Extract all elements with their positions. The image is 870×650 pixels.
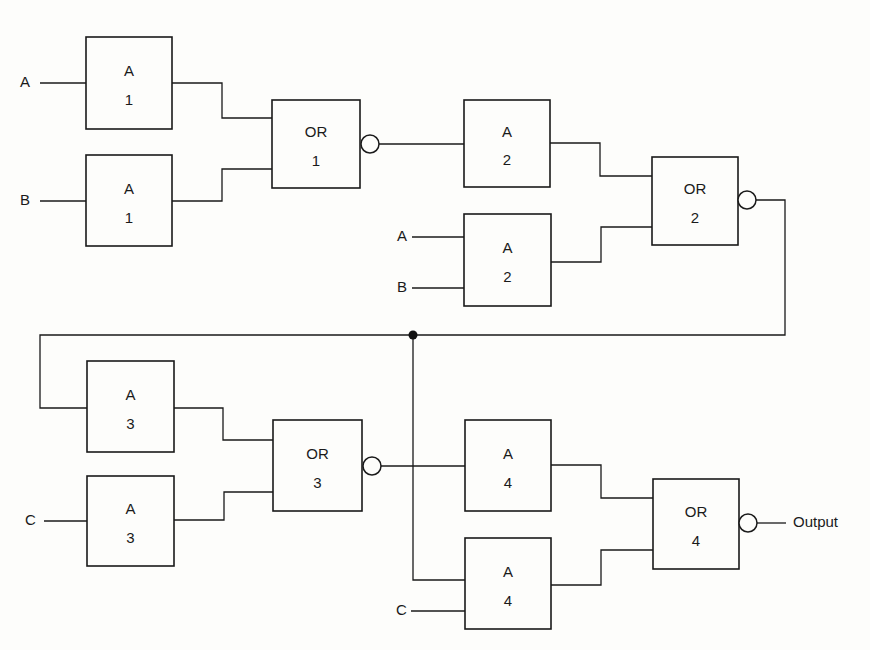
input-c-2-label: C [396,601,407,618]
gate-type-label: A [125,500,135,517]
inverter-bubble-icon [361,135,379,153]
wire [172,169,272,201]
gate-number-label: 4 [692,532,700,549]
gate-type-label: A [502,239,512,256]
gate-type-label: A [124,180,134,197]
input-b-1-label: B [20,191,30,208]
gate-and-3a: A3 [87,361,174,452]
input-a-2-label: A [397,227,407,244]
gate-or-2: OR2 [652,157,738,245]
gate-or-4: OR4 [653,479,739,569]
gate-type-label: A [124,62,134,79]
gate-number-label: 1 [125,209,133,226]
gate-type-label: A [503,563,513,580]
junction-dot-icon [409,331,418,340]
gate-and-4a: A4 [465,420,551,511]
gate-or-3: OR3 [273,420,362,511]
gate-and-3b: A3 [87,476,174,566]
gate-type-label: OR [306,445,329,462]
wire [172,83,272,118]
gate-type-label: OR [684,180,707,197]
logic-circuit-diagram: A1A1OR1A2A2OR2A3A3OR3A4A4OR4 ABABCCOutpu… [0,0,870,650]
gate-number-label: 3 [313,474,321,491]
wires [40,83,786,611]
gate-number-label: 3 [126,415,134,432]
gate-number-label: 3 [126,529,134,546]
gate-body [464,214,551,306]
input-a-1-label: A [20,73,30,90]
gate-number-label: 4 [504,592,512,609]
inverter-bubble-icon [363,457,381,475]
wire [413,335,465,580]
gate-number-label: 2 [503,151,511,168]
input-c-1-label: C [25,511,36,528]
gate-and-1b: A1 [86,155,172,246]
gate-and-2b: A2 [464,214,551,306]
gate-body [653,479,739,569]
gate-number-label: 4 [504,474,512,491]
gate-type-label: A [502,123,512,140]
gate-type-label: OR [685,503,708,520]
gate-body [272,100,360,188]
gate-type-label: A [125,386,135,403]
gate-body [464,100,550,187]
wire [551,465,653,498]
gate-and-1a: A1 [86,37,172,129]
gate-number-label: 1 [125,91,133,108]
gate-and-2a: A2 [464,100,550,187]
gate-body [86,37,172,129]
gate-body [273,420,362,511]
wire [174,492,273,520]
wire [551,550,653,585]
gate-number-label: 2 [503,268,511,285]
gate-and-4b: A4 [465,538,551,629]
junctions [409,331,418,340]
wire [551,227,652,262]
gate-number-label: 1 [312,152,320,169]
gate-body [652,157,738,245]
gate-body [86,155,172,246]
output-label: Output [793,513,839,530]
gate-body [465,538,551,629]
wire [550,143,652,176]
input-b-2-label: B [397,278,407,295]
gate-body [87,476,174,566]
gate-type-label: OR [305,123,328,140]
inverter-bubble-icon [738,191,756,209]
wire [174,408,273,440]
gate-body [465,420,551,511]
gate-number-label: 2 [691,209,699,226]
inverter-bubble-icon [739,514,757,532]
gate-body [87,361,174,452]
gate-type-label: A [503,445,513,462]
gate-or-1: OR1 [272,100,360,188]
